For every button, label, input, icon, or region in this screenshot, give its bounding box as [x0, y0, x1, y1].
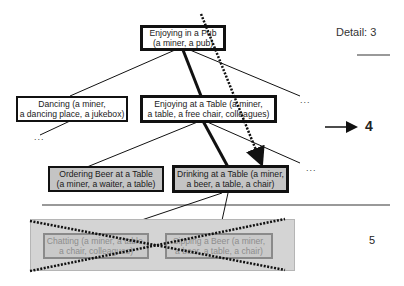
level-5-label: 5 — [369, 234, 375, 246]
ellipsis-root-children: ... — [300, 95, 311, 105]
dotted-focus-arrow — [201, 14, 260, 160]
level-4-label: 4 — [365, 118, 373, 134]
ellipsis-dancing-children: ... — [34, 132, 45, 142]
detail-level-label: Detail: 3 — [336, 26, 376, 38]
overlay-lines — [0, 0, 404, 286]
ellipsis-table-children: ... — [306, 163, 317, 173]
